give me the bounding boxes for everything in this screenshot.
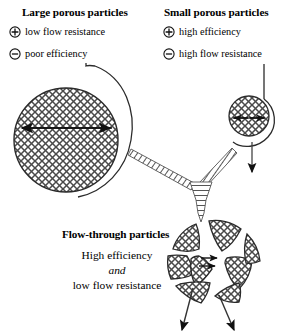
small-porous-particle (229, 96, 269, 136)
large-bullet-plus-label: low flow resistance (25, 27, 105, 37)
large-porous-particle (14, 88, 118, 192)
small-particle-group (229, 64, 274, 172)
flow-through-title: Flow-through particles (62, 228, 169, 240)
large-bullet-minus-label: poor efficiency (25, 49, 87, 59)
flow-through-line-2: and (47, 263, 187, 278)
hatched-arrow-from-large (128, 149, 196, 190)
flow-through-line-1: High efficiency (47, 248, 187, 263)
large-particle-leader (86, 63, 95, 66)
plus-circle-icon (9, 26, 21, 38)
large-bullet-minus: poor efficiency (9, 48, 87, 60)
figure-canvas: Large porous particles low flow resistan… (0, 0, 293, 336)
large-particle-group (14, 63, 132, 197)
small-bullet-plus: high efficiency (163, 26, 241, 38)
small-bullet-minus: high flow resistance (163, 48, 262, 60)
hatched-connector-arrows (128, 148, 237, 222)
flow-through-line-3: low flow resistance (47, 278, 187, 293)
small-bullet-plus-label: high efficiency (179, 27, 241, 37)
hatched-arrow-merged (190, 182, 212, 222)
flow-through-description: High efficiency and low flow resistance (47, 248, 187, 293)
small-particles-title: Small porous particles (164, 6, 269, 18)
minus-circle-icon (163, 48, 175, 60)
minus-circle-icon (9, 48, 21, 60)
small-bullet-minus-label: high flow resistance (179, 49, 262, 59)
large-particles-title: Large porous particles (22, 6, 128, 18)
large-bullet-plus: low flow resistance (9, 26, 105, 38)
plus-circle-icon (163, 26, 175, 38)
